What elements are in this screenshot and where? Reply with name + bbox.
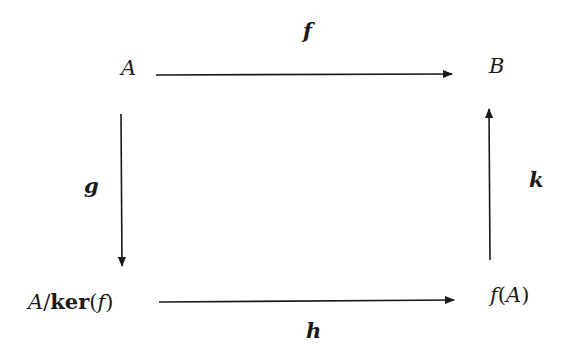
quotient-close-paren: ) <box>105 290 113 314</box>
quotient-base: A <box>28 290 43 314</box>
arrow-k <box>489 109 490 260</box>
label-h: h <box>306 320 321 341</box>
image-close-paren: ) <box>521 283 529 307</box>
label-g: g <box>84 175 99 196</box>
node-quotient: A/ker(f) <box>28 291 113 313</box>
arrow-g <box>121 114 122 266</box>
node-A: A <box>121 58 136 79</box>
arrow-f <box>156 74 452 75</box>
label-k: k <box>529 169 544 190</box>
image-fn: f <box>490 283 498 307</box>
image-arg: A <box>506 283 521 307</box>
arrow-h <box>159 300 454 302</box>
quotient-ker: ker <box>50 289 89 314</box>
node-B: B <box>489 56 504 77</box>
node-image: f(A) <box>490 285 529 306</box>
label-f: f <box>303 20 312 41</box>
image-open-paren: ( <box>498 283 506 307</box>
